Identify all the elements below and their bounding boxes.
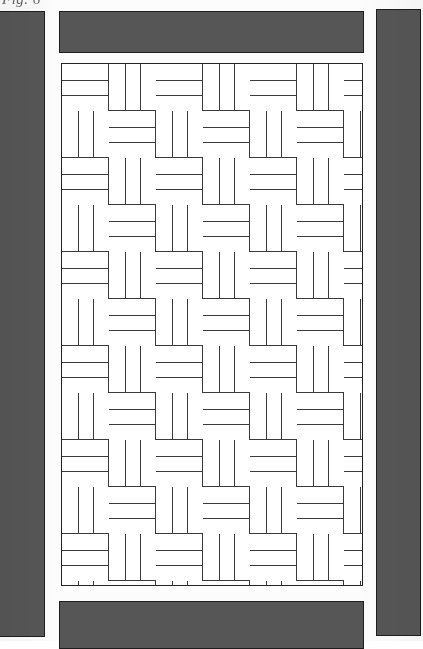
- weave-plank: [156, 64, 202, 80]
- weave-plank: [281, 205, 297, 251]
- weave-plank: [297, 440, 313, 486]
- weave-plank: [109, 252, 125, 298]
- weave-block-vertical: [156, 393, 203, 440]
- weave-block-vertical: [62, 205, 109, 252]
- weave-plank: [203, 424, 249, 440]
- weave-block-vertical: [203, 252, 250, 299]
- weave-block-vertical: [62, 299, 109, 346]
- weave-plank: [281, 111, 297, 157]
- weave-plank: [109, 111, 155, 127]
- weave-plank: [62, 346, 108, 362]
- weave-plank: [156, 268, 202, 284]
- weave-block-vertical: [62, 111, 109, 158]
- weave-plank: [219, 64, 235, 110]
- weave-plank: [313, 252, 329, 298]
- weave-plank: [140, 64, 156, 110]
- weave-plank: [172, 299, 188, 345]
- weave-plank: [203, 581, 249, 586]
- weave-plank: [203, 346, 219, 392]
- weave-plank: [109, 346, 125, 392]
- weave-block-horizontal: [344, 534, 363, 581]
- weave-plank: [156, 205, 172, 251]
- weave-plank: [250, 64, 296, 80]
- weave-block-horizontal: [156, 64, 203, 111]
- weave-plank: [109, 518, 155, 534]
- weave-plank: [109, 534, 125, 580]
- weave-block-horizontal: [62, 346, 109, 393]
- weave-plank: [156, 534, 202, 550]
- weave-block-horizontal: [203, 111, 250, 158]
- weave-plank: [297, 534, 313, 580]
- border-slab-right: [376, 9, 421, 636]
- weave-plank: [78, 111, 94, 157]
- weave-plank: [328, 64, 344, 110]
- weave-plank: [250, 252, 296, 268]
- weave-plank: [234, 534, 250, 580]
- weave-plank: [62, 362, 108, 378]
- weave-block-horizontal: [344, 346, 363, 393]
- weave-plank: [203, 487, 249, 503]
- weave-plank: [360, 393, 363, 439]
- weave-block-vertical: [297, 440, 344, 487]
- weave-block-vertical: [62, 581, 109, 586]
- weave-plank: [344, 80, 363, 96]
- weave-plank: [281, 487, 297, 533]
- weave-block-horizontal: [62, 158, 109, 205]
- weave-block-vertical: [344, 581, 363, 586]
- weave-plank: [297, 236, 343, 252]
- weave-plank: [250, 299, 266, 345]
- weave-plank: [140, 252, 156, 298]
- weave-block-vertical: [250, 111, 297, 158]
- weave-plank: [203, 205, 249, 221]
- weave-plank: [62, 268, 108, 284]
- weave-plank: [62, 64, 108, 80]
- weave-plank: [281, 299, 297, 345]
- weave-plank: [109, 236, 155, 252]
- border-slab-left: [0, 11, 45, 637]
- weave-plank: [109, 64, 125, 110]
- weave-plank: [109, 440, 125, 486]
- weave-block-vertical: [109, 252, 156, 299]
- weave-plank: [234, 346, 250, 392]
- weave-plank: [109, 315, 155, 331]
- weave-block-vertical: [109, 346, 156, 393]
- weave-plank: [297, 142, 343, 158]
- weave-plank: [250, 111, 266, 157]
- weave-block-vertical: [156, 487, 203, 534]
- weave-plank: [203, 252, 219, 298]
- weave-plank: [109, 409, 155, 425]
- weave-plank: [250, 487, 266, 533]
- weave-block-vertical: [344, 111, 363, 158]
- weave-plank: [234, 440, 250, 486]
- weave-block-vertical: [250, 581, 297, 586]
- weave-plank: [140, 440, 156, 486]
- weave-plank: [203, 534, 219, 580]
- weave-plank: [140, 346, 156, 392]
- weave-plank: [156, 487, 172, 533]
- weave-plank: [203, 440, 219, 486]
- weave-block-horizontal: [109, 581, 156, 586]
- weave-plank: [109, 330, 155, 346]
- weave-plank: [297, 127, 343, 143]
- weave-block-horizontal: [109, 299, 156, 346]
- weave-plank: [109, 424, 155, 440]
- weave-block-horizontal: [203, 581, 250, 586]
- weave-plank: [62, 456, 108, 472]
- weave-plank: [344, 252, 363, 268]
- weave-block-vertical: [250, 205, 297, 252]
- weave-block-vertical: [297, 534, 344, 581]
- weave-plank: [109, 127, 155, 143]
- weave-block-vertical: [344, 299, 363, 346]
- weave-plank: [156, 362, 202, 378]
- weave-block-horizontal: [109, 205, 156, 252]
- weave-plank: [344, 174, 363, 190]
- weave-plank: [250, 158, 296, 174]
- weave-block-horizontal: [109, 487, 156, 534]
- weave-plank: [313, 158, 329, 204]
- weave-plank: [250, 393, 266, 439]
- weave-plank: [297, 581, 343, 586]
- weave-plank: [344, 95, 363, 111]
- weave-plank: [360, 487, 363, 533]
- weave-plank: [203, 503, 249, 519]
- weave-plank: [156, 158, 202, 174]
